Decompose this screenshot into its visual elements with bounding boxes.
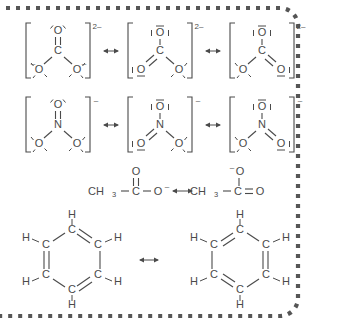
methyl-label: CH — [190, 185, 206, 197]
arrow-head-right — [216, 49, 221, 54]
terminal-oxygen-label: O — [256, 185, 265, 197]
top-oxygen-label: O — [54, 24, 63, 36]
bond-right-a — [268, 55, 276, 62]
chemistry-drawing-canvas: 2– C O O – O — [0, 0, 337, 333]
bracket-right — [187, 23, 192, 78]
left-oxygen-charge: – — [31, 59, 36, 68]
center-atom-N: N — [54, 118, 62, 130]
lone-pair-top-left — [51, 100, 54, 103]
nitrate-resonance-arrow-1 — [103, 123, 119, 128]
methyl-subscript: 3 — [214, 190, 218, 199]
bond-left-a — [146, 55, 154, 62]
ring-bond-bottom-right — [247, 279, 259, 287]
methyl-subscript: 3 — [112, 190, 116, 199]
lone-pair-left-c — [249, 75, 252, 78]
bond-CH-bottom-right — [105, 278, 112, 281]
nitrate-charge-1: – — [94, 96, 99, 105]
top-oxygen-label: O — [258, 26, 267, 38]
bond-left — [248, 131, 256, 138]
carbon-bottom-left: C — [210, 268, 218, 280]
center-atom-C: C — [258, 44, 266, 56]
bond-left-b — [149, 133, 157, 140]
carbon-top-left: C — [210, 238, 218, 250]
bond-CH-top-left — [200, 239, 207, 242]
lone-pair-right-b — [183, 76, 185, 79]
hydrogen-top: H — [236, 208, 244, 220]
carbon-bottom: C — [68, 283, 76, 295]
arrow-head-left — [103, 123, 108, 128]
arrow-head-right — [114, 49, 119, 54]
hydrogen-top: H — [68, 208, 76, 220]
center-atom-N: N — [156, 118, 164, 130]
bond-right-b — [265, 59, 273, 66]
bracket-left — [230, 97, 235, 152]
bond-CH-bottom-right — [273, 278, 280, 281]
lone-pair-left-a — [235, 63, 238, 66]
bracket-right — [85, 23, 90, 78]
bond-right — [64, 131, 72, 138]
hydrogen-top-right: H — [282, 231, 290, 243]
right-oxygen-label: O — [175, 137, 184, 149]
left-oxygen-label: O — [137, 137, 146, 149]
lone-pair-right-b — [81, 150, 83, 153]
nitrate-structure-3: – N O O O — [230, 96, 303, 152]
lone-pair-right-c — [171, 75, 174, 78]
lone-pair-right-c — [171, 149, 174, 152]
right-oxygen-label: O — [175, 63, 184, 75]
top-oxygen-label: O — [236, 165, 245, 177]
center-atom-N: N — [258, 118, 266, 130]
right-oxygen-charge: – — [82, 59, 87, 68]
ring-bond-bottom-left-a — [221, 279, 233, 287]
benzene-structure-2: C C C C C C H H H H H H — [190, 208, 290, 310]
nitrate-resonance-arrow-2 — [205, 123, 221, 128]
top-oxygen-label: O — [156, 100, 165, 112]
bond-CH-bottom-left — [32, 278, 39, 281]
bond-CH-bottom-left — [200, 278, 207, 281]
carbon-bottom-right: C — [94, 268, 102, 280]
ring-bond-top-left-a — [221, 233, 233, 241]
lone-pair-right-c — [69, 75, 72, 78]
arrow-head-left — [103, 49, 108, 54]
ring-bond-top-right — [247, 233, 259, 241]
lone-pair-left-b — [33, 150, 35, 153]
lone-pair-right-a — [185, 137, 188, 140]
bond-left — [248, 57, 256, 64]
lone-pair-top-right — [63, 26, 66, 29]
lone-pair-left-b — [33, 76, 35, 79]
acetate-structure-2: CH 3 C O – O — [190, 163, 265, 199]
hydrogen-bottom-left: H — [190, 275, 198, 287]
left-oxygen-label: O — [35, 63, 44, 75]
carbonyl-carbon: C — [234, 185, 242, 197]
terminal-oxygen-label: O — [154, 185, 163, 197]
terminal-oxygen-charge: – — [165, 182, 170, 191]
hydrogen-bottom-right: H — [114, 275, 122, 287]
carbonate-charge-1: 2– — [93, 22, 102, 31]
arrow-head-left — [205, 49, 210, 54]
arrow-head-right — [114, 123, 119, 128]
carbon-bottom-right: C — [262, 268, 270, 280]
top-oxygen-label: O — [54, 98, 63, 110]
carbonate-charge-2: 2– — [195, 22, 204, 31]
hydrogen-bottom-left: H — [22, 275, 30, 287]
lone-pair-left-a — [31, 137, 34, 140]
hydrogen-top-left: H — [190, 231, 198, 243]
bond-right — [64, 57, 72, 64]
bond-left — [44, 131, 52, 138]
top-oxygen-label: O — [132, 165, 141, 177]
arrow-head-left — [205, 123, 210, 128]
carbonate-structure-2: 2– C O O O — [128, 22, 204, 78]
carbon-bottom-left: C — [42, 268, 50, 280]
right-oxygen-label: O — [73, 63, 82, 75]
bond-right — [166, 131, 174, 138]
arrow-head-right — [154, 258, 159, 263]
bracket-right — [187, 97, 192, 152]
arrow-head-left — [139, 258, 144, 263]
bond-left-b — [149, 59, 157, 66]
methyl-label: CH — [88, 185, 104, 197]
carbon-top-right: C — [94, 238, 102, 250]
bond-CH-top-right — [273, 239, 280, 242]
bracket-right — [85, 97, 90, 152]
acetate-row: CH 3 C O O – — [88, 163, 265, 199]
bond-left-a — [146, 129, 154, 136]
hydrogen-bottom-right: H — [282, 275, 290, 287]
